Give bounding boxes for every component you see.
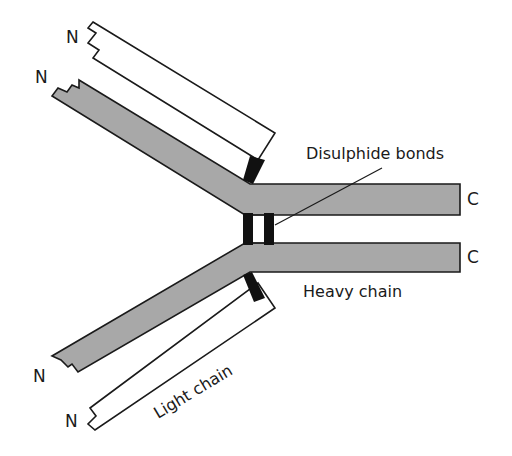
hinge-bond-right [264, 213, 274, 245]
c-label-lower: C [467, 247, 479, 267]
upper-light-chain [88, 22, 275, 160]
n-label-lower-heavy: N [33, 366, 46, 386]
hinge-bond-left [243, 213, 253, 245]
upper-light-heavy-bond [243, 156, 265, 184]
c-label-upper: C [467, 189, 479, 209]
n-label-upper-heavy: N [35, 67, 48, 87]
heavy-chain-label: Heavy chain [303, 282, 402, 301]
n-label-lower-light: N [65, 411, 78, 431]
n-label-upper-light: N [66, 27, 79, 47]
antibody-diagram: N N N N C C Disulphide bonds Heavy chain… [0, 0, 512, 456]
disulphide-bonds-label: Disulphide bonds [306, 144, 444, 163]
